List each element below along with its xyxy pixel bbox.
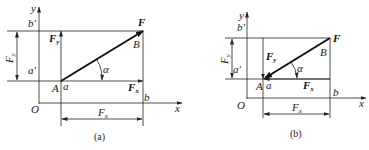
origin-label: O [31,103,39,115]
dim-fy-label: Fy [218,53,232,65]
angle-label: α [103,63,109,75]
a-prime-label: a' [28,64,37,76]
origin-label: O [237,99,245,111]
point-a-small-label: a [63,80,69,92]
diagram-a: y x O b' a' F B A a b α Fy Fx Fy Fx (a) [3,2,182,143]
angle-arc [97,60,102,80]
force-label: F [332,32,341,44]
caption-b: (b) [290,128,302,140]
point-a-small-label: a [266,79,272,91]
b-prime-label: b' [237,21,246,33]
point-a-label: A [255,80,263,92]
point-b-label: B [133,38,140,50]
dim-fx-label: Fx [97,106,109,120]
angle-label: α [297,62,303,74]
point-b-small-label: b [333,86,339,98]
force-projection-figure: y x O b' a' F B A a b α Fy Fx Fy Fx (a) [0,0,369,150]
x-axis-label: x [174,102,180,114]
b-prime-label: b' [28,17,37,29]
fy-component-label: Fy [265,50,277,64]
diagram-b: y x O b' a' F B A a b α Fy Fx Fy Fx (b) [218,9,366,140]
x-axis-label: x [358,97,364,109]
a-prime-label: a' [233,63,242,75]
force-label: F [137,16,146,28]
fx-component-label: Fx [302,79,314,93]
dim-fy-label: Fy [3,52,17,64]
y-axis-label: y [30,2,36,14]
point-b-label: B [320,46,327,58]
dim-fx-label: Fx [291,101,303,115]
point-a-label: A [51,82,59,94]
fy-component-label: Fy [48,32,60,46]
fx-component-label: Fx [127,81,139,95]
caption-a: (a) [94,131,105,143]
point-b-small-label: b [144,91,150,103]
y-axis-label: y [238,9,244,21]
